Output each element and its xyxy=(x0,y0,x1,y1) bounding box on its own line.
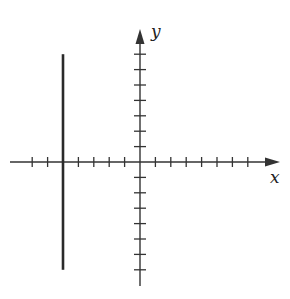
y-axis-label: y xyxy=(150,21,161,41)
x-axis-label: x xyxy=(270,167,280,187)
x-axis-arrow-icon xyxy=(265,158,280,167)
y-axis-arrow-icon xyxy=(136,29,145,44)
axes xyxy=(10,29,280,286)
coordinate-plane: y x xyxy=(0,0,290,299)
